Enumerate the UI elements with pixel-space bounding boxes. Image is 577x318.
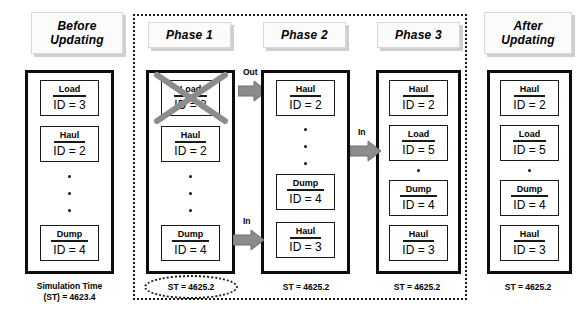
entity-card: Haul ID = 3 — [389, 225, 448, 261]
column-header-phase-3: Phase 3 — [377, 22, 460, 48]
entity-activity: Dump — [511, 184, 549, 197]
arrow-label-in-2: In — [358, 127, 366, 137]
ellipsis-dot — [304, 145, 307, 148]
entity-card: Dump ID = 4 — [389, 180, 448, 216]
entity-card: Haul ID = 2 — [40, 126, 99, 162]
entity-id: ID = 2 — [53, 143, 85, 158]
simulation-time-label-phase-1: ST = 4625.2 — [146, 282, 236, 293]
entity-card: Haul ID = 3 — [500, 225, 559, 261]
entity-activity: Haul — [54, 130, 86, 143]
entity-card: Haul ID = 2 — [500, 80, 559, 116]
column-header-phase-1: Phase 1 — [148, 22, 231, 48]
ellipsis-dot — [68, 175, 71, 178]
entity-id: ID = 4 — [174, 242, 206, 257]
entity-activity: Load — [402, 129, 436, 142]
ellipsis-dot — [304, 162, 307, 165]
entity-id: ID = 2 — [513, 97, 545, 112]
entity-card: Load ID = 5 — [389, 125, 448, 161]
header-line-1: Phase 1 — [166, 28, 213, 42]
entity-activity: Haul — [514, 229, 546, 242]
entity-card: Load ID = 5 — [500, 125, 559, 161]
entity-card: Dump ID = 4 — [500, 180, 559, 216]
footer-line-1: ST = 4625.2 — [261, 282, 351, 293]
entity-id: ID = 3 — [513, 242, 545, 257]
entity-activity: Load — [174, 84, 208, 97]
entity-activity: Load — [53, 84, 87, 97]
entity-id: ID = 4 — [402, 197, 434, 212]
footer-line-1: ST = 4625.2 — [483, 282, 573, 293]
ellipsis-dot — [304, 128, 307, 131]
entity-activity: Haul — [290, 226, 322, 239]
entity-activity: Haul — [403, 84, 435, 97]
entity-id: ID = 3 — [402, 242, 434, 257]
in-arrow-icon — [233, 229, 265, 251]
column-header-before-updating: Before Updating — [31, 12, 123, 54]
simulation-time-label-phase-3: ST = 4625.2 — [372, 282, 462, 293]
entity-id: ID = 4 — [53, 242, 85, 257]
column-header-phase-2: Phase 2 — [263, 22, 346, 48]
entity-card: Haul ID = 2 — [389, 80, 448, 116]
entity-activity: Dump — [51, 229, 89, 242]
entity-id: ID = 3 — [53, 97, 85, 112]
entity-activity: Dump — [400, 184, 438, 197]
entity-id: ID = 5 — [402, 142, 434, 157]
entity-activity: Haul — [290, 84, 322, 97]
header-line-1: Phase 2 — [281, 28, 328, 42]
entity-card: Dump ID = 4 — [276, 174, 335, 210]
entity-card: Load ID = 3 — [40, 80, 99, 116]
ellipsis-dot — [417, 169, 420, 172]
entity-card: Dump ID = 4 — [161, 225, 220, 261]
header-line-2: Updating — [501, 33, 555, 47]
ellipsis-dot — [189, 175, 192, 178]
ellipsis-dot — [189, 192, 192, 195]
footer-line-1: Simulation Time — [13, 281, 126, 292]
entity-id: ID = 2 — [174, 143, 206, 158]
footer-line-1: ST = 4625.2 — [146, 282, 236, 293]
simulation-time-label-phase-2: ST = 4625.2 — [261, 282, 351, 293]
footer-line-1: ST = 4625.2 — [372, 282, 462, 293]
ellipsis-dot — [68, 192, 71, 195]
entity-card: Haul ID = 2 — [161, 126, 220, 162]
entity-activity: Load — [513, 129, 547, 142]
ellipsis-dot — [68, 209, 71, 212]
entity-id: ID = 4 — [289, 191, 321, 206]
diagram-canvas: Before Updating Phase 1 Phase 2 Phase 3 … — [0, 0, 577, 318]
header-line-1: After — [501, 19, 555, 33]
entity-card: Haul ID = 2 — [276, 80, 335, 116]
header-line-1: Phase 3 — [395, 28, 442, 42]
in-arrow-icon — [350, 140, 382, 162]
entity-activity: Dump — [172, 229, 210, 242]
column-header-after-updating: After Updating — [484, 12, 572, 54]
entity-id: ID = 2 — [402, 97, 434, 112]
entity-card: Dump ID = 4 — [40, 225, 99, 261]
entity-id: ID = 5 — [513, 142, 545, 157]
simulation-time-label-after: ST = 4625.2 — [483, 282, 573, 293]
simulation-time-label-before: Simulation Time (ST) = 4623.4 — [13, 281, 126, 303]
entity-card: Haul ID = 3 — [276, 222, 335, 258]
footer-line-2: (ST) = 4623.4 — [13, 292, 126, 303]
ellipsis-dot — [528, 169, 531, 172]
ellipsis-dot — [189, 209, 192, 212]
entity-activity: Haul — [514, 84, 546, 97]
entity-id: ID = 3 — [174, 97, 206, 112]
entity-activity: Dump — [287, 178, 325, 191]
entity-id: ID = 4 — [513, 197, 545, 212]
header-line-2: Updating — [50, 33, 104, 47]
arrow-label-out: Out — [243, 67, 258, 77]
entity-id: ID = 3 — [289, 239, 321, 254]
arrow-label-in-1: In — [243, 216, 251, 226]
entity-activity: Haul — [403, 229, 435, 242]
entity-card: Load ID = 3 — [161, 80, 220, 116]
entity-id: ID = 2 — [289, 97, 321, 112]
entity-activity: Haul — [175, 130, 207, 143]
header-line-1: Before — [50, 19, 104, 33]
